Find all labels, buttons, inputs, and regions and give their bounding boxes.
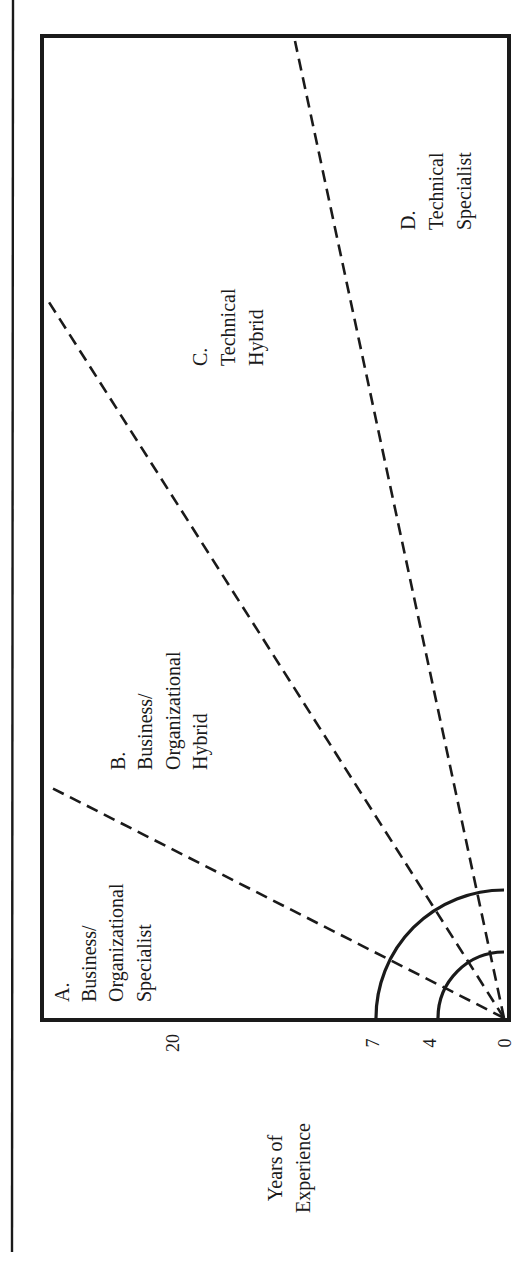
tick-7: 7 [363,1039,383,1048]
region-d-label: D. Technical Specialist [397,152,476,230]
region-b-line-3: Organizational [162,651,185,770]
tick-20: 20 [163,1034,183,1052]
axis-label-line-2: Experience [292,1123,315,1213]
region-a-line-3: Organizational [105,883,128,1002]
region-b-label: B. Business/ Organizational Hybrid [107,651,212,770]
region-b-line-1: B. [107,752,129,770]
region-c-line-2: Technical [217,288,239,366]
region-a-label: A. Business/ Organizational Specialist [51,883,156,1002]
region-b-line-4: Hybrid [189,713,212,770]
arc-4-years [438,952,504,1018]
career-path-diagram: A. Business/ Organizational Specialist B… [0,0,524,1270]
region-c-label: C. Technical Hybrid [189,288,268,366]
region-a-line-2: Business/ [78,925,100,1002]
region-a-line-4: Specialist [133,924,156,1002]
region-b-line-2: Business/ [134,693,156,770]
region-c-line-3: Hybrid [245,309,268,366]
region-a-line-1: A. [51,983,73,1002]
region-d-line-1: D. [397,211,419,230]
region-c-line-1: C. [189,348,211,366]
axis-label-line-1: Years of [264,1135,286,1202]
axis-ticks: 20 7 4 0 [163,1034,515,1052]
tick-4: 4 [420,1039,440,1048]
axis-label: Years of Experience [264,1123,315,1213]
page-rule [12,0,13,1252]
region-d-line-2: Technical [425,152,447,230]
tick-0: 0 [495,1039,515,1048]
region-d-line-3: Specialist [453,152,476,230]
